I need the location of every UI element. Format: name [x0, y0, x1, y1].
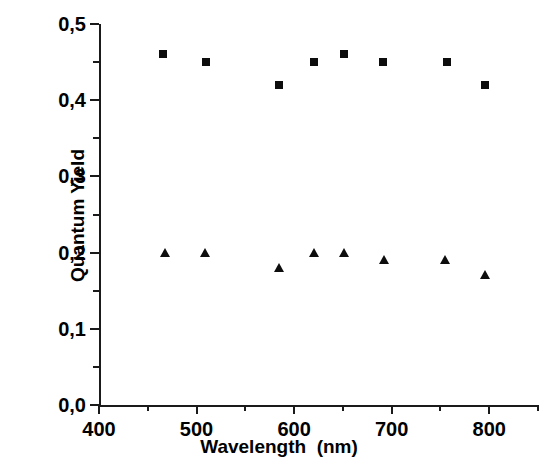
x-axis-title: Wavelength (nm): [0, 436, 558, 458]
data-point-triangle: [480, 271, 490, 280]
data-point-triangle: [309, 248, 319, 257]
y-tick-major: [90, 328, 99, 330]
plot-area: 0,00,10,20,30,40,5 400500600700800 Quant…: [99, 24, 538, 407]
data-point-triangle: [200, 248, 210, 257]
data-point-triangle: [160, 248, 170, 257]
y-tick-major: [90, 175, 99, 177]
y-tick-major: [90, 99, 99, 101]
chart-page: 0,00,10,20,30,40,5 400500600700800 Quant…: [0, 0, 558, 472]
data-point-triangle: [440, 255, 450, 264]
data-point-triangle: [339, 248, 349, 257]
y-tick-major: [90, 252, 99, 254]
data-point-triangle: [379, 255, 389, 264]
data-point-triangle: [274, 263, 284, 272]
series-triangles: [99, 24, 538, 407]
y-axis-title: Quantum Yield: [66, 24, 90, 407]
y-tick-major: [90, 23, 99, 25]
